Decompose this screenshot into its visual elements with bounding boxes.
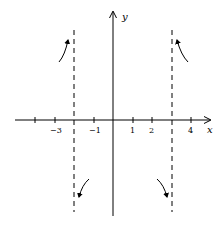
curve-upper-right xyxy=(177,40,188,62)
curve-lower-left xyxy=(79,179,89,197)
tick-label-2: 2 xyxy=(149,126,154,135)
tick-label-neg3: −3 xyxy=(50,126,62,135)
graph: −3 −1 1 2 4 x y xyxy=(0,0,223,226)
tick-label-1: 1 xyxy=(130,126,135,135)
y-axis-label: y xyxy=(121,11,128,22)
x-axis-label: x xyxy=(207,124,213,135)
curve-lower-right xyxy=(157,179,167,197)
tick-label-neg1: −1 xyxy=(89,126,101,135)
curve-upper-left xyxy=(59,40,68,62)
tick-label-4: 4 xyxy=(188,126,193,135)
